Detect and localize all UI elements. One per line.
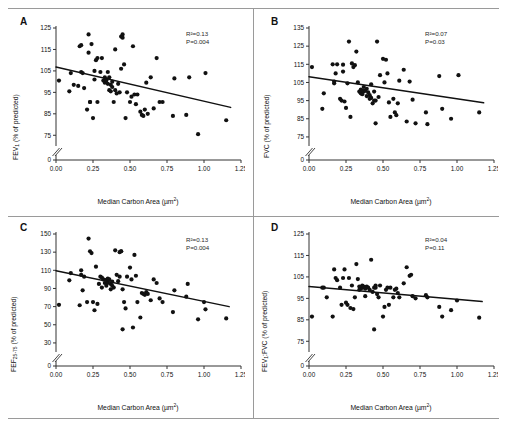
panel-c-letter: C xyxy=(20,222,27,233)
panel-b: B FVC (% of predicted) R²=0.07 P=0.03 07… xyxy=(253,8,507,216)
svg-text:0.25: 0.25 xyxy=(87,371,100,378)
panel-d-plot-area: 07585951051151250.000.250.500.751.001.25 xyxy=(283,228,498,388)
svg-text:125: 125 xyxy=(40,24,51,31)
panel-c-plot-area: 0305070901101301500.000.250.500.751.001.… xyxy=(30,228,245,388)
svg-text:0.50: 0.50 xyxy=(377,165,390,172)
panel-b-letter: B xyxy=(271,16,278,27)
panel-a-letter: A xyxy=(20,16,27,27)
svg-text:105: 105 xyxy=(293,273,304,280)
svg-text:1.00: 1.00 xyxy=(451,165,464,172)
svg-text:0.75: 0.75 xyxy=(414,165,427,172)
svg-text:0.50: 0.50 xyxy=(377,371,390,378)
svg-text:115: 115 xyxy=(294,61,305,68)
svg-text:0.75: 0.75 xyxy=(414,371,427,378)
figure-root: A FEV1 (% of predicted) R²=0.13 P=0.004 … xyxy=(0,0,507,426)
svg-text:0.50: 0.50 xyxy=(124,371,137,378)
panel-b-svg: 07585951051151251350.000.250.500.751.001… xyxy=(283,22,498,182)
panel-b-plot-area: 07585951051151251350.000.250.500.751.001… xyxy=(283,22,498,182)
svg-text:75: 75 xyxy=(297,338,305,345)
svg-text:1.25: 1.25 xyxy=(488,165,498,172)
svg-text:0: 0 xyxy=(300,362,304,369)
svg-text:70: 70 xyxy=(44,303,52,310)
svg-text:30: 30 xyxy=(44,339,52,346)
svg-text:95: 95 xyxy=(297,295,305,302)
svg-text:0.25: 0.25 xyxy=(87,165,100,172)
svg-text:1.25: 1.25 xyxy=(235,165,245,172)
panel-d: D FEV1:FVC (% of predicted) R²=0.04 P=0.… xyxy=(253,216,507,418)
panel-a-svg: 07585951051151250.000.250.500.751.001.25 xyxy=(30,22,245,182)
svg-text:115: 115 xyxy=(294,252,305,259)
panel-d-letter: D xyxy=(271,222,278,233)
svg-text:115: 115 xyxy=(41,46,52,53)
svg-text:0.00: 0.00 xyxy=(50,165,63,172)
svg-text:150: 150 xyxy=(40,230,51,237)
svg-text:0.25: 0.25 xyxy=(340,165,353,172)
panel-d-svg: 07585951051151250.000.250.500.751.001.25 xyxy=(283,228,498,388)
svg-text:125: 125 xyxy=(293,42,304,49)
svg-text:135: 135 xyxy=(293,24,304,31)
panel-d-x-axis-label: Median Carbon Area (µm2) xyxy=(291,402,491,411)
svg-text:105: 105 xyxy=(40,67,51,74)
svg-text:0.75: 0.75 xyxy=(161,371,174,378)
svg-text:85: 85 xyxy=(297,316,305,323)
svg-text:0.00: 0.00 xyxy=(303,165,316,172)
svg-text:0.00: 0.00 xyxy=(303,371,316,378)
svg-text:90: 90 xyxy=(44,285,52,292)
panel-c-y-axis-label: FEF25-75 (% of predicted) xyxy=(10,296,18,372)
svg-text:85: 85 xyxy=(44,110,52,117)
svg-text:85: 85 xyxy=(297,115,305,122)
svg-text:1.25: 1.25 xyxy=(235,371,245,378)
svg-text:125: 125 xyxy=(293,230,304,237)
svg-text:0.00: 0.00 xyxy=(50,371,63,378)
svg-text:75: 75 xyxy=(44,132,52,139)
svg-text:1.00: 1.00 xyxy=(451,371,464,378)
panel-a-y-axis-label: FEV1 (% of predicted) xyxy=(12,94,20,160)
svg-text:1.25: 1.25 xyxy=(488,371,498,378)
panel-a-x-axis-label: Median Carbon Area (µm2) xyxy=(38,196,238,205)
svg-text:1.00: 1.00 xyxy=(198,165,211,172)
rule-bottom xyxy=(8,418,499,419)
svg-text:105: 105 xyxy=(293,79,304,86)
panel-c: C FEF25-75 (% of predicted) R²=0.13 P=0.… xyxy=(0,216,253,418)
svg-text:0: 0 xyxy=(47,156,51,163)
svg-text:0: 0 xyxy=(300,156,304,163)
panel-d-y-axis-label: FEV1:FVC (% of predicted) xyxy=(261,291,269,372)
svg-text:95: 95 xyxy=(297,97,305,104)
svg-text:0.25: 0.25 xyxy=(340,371,353,378)
panel-c-svg: 0305070901101301500.000.250.500.751.001.… xyxy=(30,228,245,388)
svg-text:50: 50 xyxy=(44,321,52,328)
svg-text:110: 110 xyxy=(41,267,52,274)
panel-b-y-axis-label: FVC (% of predicted) xyxy=(263,95,270,158)
svg-text:0.75: 0.75 xyxy=(161,165,174,172)
panel-c-x-axis-label: Median Carbon Area (µm2) xyxy=(38,402,238,411)
svg-text:95: 95 xyxy=(44,89,52,96)
svg-text:0: 0 xyxy=(47,362,51,369)
panel-a: A FEV1 (% of predicted) R²=0.13 P=0.004 … xyxy=(0,8,253,216)
svg-text:130: 130 xyxy=(40,248,51,255)
svg-text:1.00: 1.00 xyxy=(198,371,211,378)
panel-a-plot-area: 07585951051151250.000.250.500.751.001.25 xyxy=(30,22,245,182)
svg-text:75: 75 xyxy=(297,133,305,140)
svg-text:0.50: 0.50 xyxy=(124,165,137,172)
panel-b-x-axis-label: Median Carbon Area (µm2) xyxy=(291,196,491,205)
